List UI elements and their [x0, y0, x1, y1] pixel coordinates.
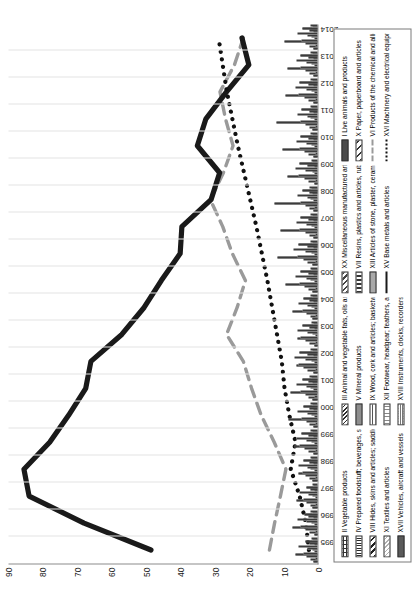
gridline — [8, 508, 317, 509]
legend-item: XVIII Instruments, clocks, recorders and… — [393, 297, 407, 425]
legend-label: XVII Vehicles, aircraft and vessels — [397, 433, 404, 532]
bar — [310, 429, 317, 431]
legend-item: III Animal and vegetable fats, oils and … — [337, 297, 351, 425]
y-axis-tick-label: 40 — [175, 563, 185, 576]
bar — [310, 105, 317, 107]
legend-item: XV Base metals and articles — [379, 165, 393, 293]
bar — [310, 348, 317, 350]
legend-item: XI Textiles and articles — [379, 429, 393, 557]
y-axis-tick-label: 70 — [72, 563, 82, 576]
legend-item: XVII Vehicles, aircraft and vessels — [393, 429, 407, 557]
bar — [312, 483, 318, 485]
legend-swatch-icon — [341, 535, 348, 557]
gridline — [8, 400, 317, 401]
legend-label: XVIII Instruments, clocks, recorders and… — [397, 297, 404, 400]
gridline — [8, 535, 317, 536]
legend-item: XIII Articles of stone, plaster, ceramic… — [365, 165, 379, 293]
bar — [310, 402, 317, 404]
y-axis-tick-label: 60 — [106, 563, 116, 576]
rotated-figure: 9080706050403020100199519961997199819992… — [0, 0, 419, 606]
y-axis-tick-label: 0 — [313, 563, 323, 572]
legend-swatch-icon — [369, 403, 376, 425]
bar — [310, 510, 317, 512]
legend-item: IX Wood, cork and articles; basketware — [365, 297, 379, 425]
bar — [310, 213, 317, 215]
line-series — [218, 37, 308, 549]
legend-label: VII Resins, plastics and articles, rubbe… — [355, 165, 362, 268]
gridline — [8, 454, 317, 455]
bar — [310, 240, 317, 242]
legend-item: XII Footwear, headgear; feathers, artif.… — [379, 297, 393, 425]
legend-line-icon — [369, 139, 376, 161]
legend-spacer — [393, 33, 407, 161]
bar — [310, 294, 317, 296]
y-axis-tick-label: 20 — [244, 563, 254, 576]
gridline — [8, 49, 317, 50]
legend-label: IV Prepared foodstuff; beverages, spirit… — [355, 429, 362, 532]
chart-screenshot: 9080706050403020100199519961997199819992… — [0, 0, 419, 606]
gridline — [8, 292, 317, 293]
legend-swatch-icon — [355, 271, 362, 293]
bar — [310, 51, 317, 53]
legend-label: VI Products of the chemical and allied i… — [369, 33, 376, 136]
legend-label: VIII Hides, skins and articles; saddlery… — [369, 429, 376, 532]
gridline — [8, 130, 317, 131]
legend-swatch-icon — [355, 403, 362, 425]
gridline — [8, 427, 317, 428]
legend-swatch-icon — [397, 535, 404, 557]
legend-swatch-icon — [383, 535, 390, 557]
gridline — [8, 157, 317, 158]
legend-item: XVI Machinery and electrical equipment — [379, 33, 393, 161]
legend-swatch-icon — [369, 535, 376, 557]
gridline — [8, 319, 317, 320]
legend-item: XX Miscellaneous manufactured articles — [337, 165, 351, 293]
legend-swatch-icon — [341, 139, 348, 161]
legend-swatch-icon — [355, 139, 362, 161]
legend-swatch-icon — [355, 535, 362, 557]
line-series — [23, 37, 248, 549]
y-axis-tick-label: 30 — [210, 563, 220, 576]
gridline — [8, 103, 317, 104]
legend-item: VI Products of the chemical and allied i… — [365, 33, 379, 161]
bar — [310, 78, 317, 80]
gridline — [8, 76, 317, 77]
bar — [311, 159, 317, 161]
gridline — [8, 346, 317, 347]
gridline — [8, 184, 317, 185]
legend-label: XV Base metals and articles — [383, 186, 390, 268]
bar — [311, 537, 317, 539]
gridline — [8, 238, 317, 239]
legend-label: III Animal and vegetable fats, oils and … — [341, 297, 348, 400]
bar — [309, 375, 317, 377]
y-axis-tick-label: 80 — [37, 563, 47, 576]
bar — [309, 186, 317, 188]
legend-label: XI Textiles and articles — [383, 467, 390, 532]
plot-area: 9080706050403020100199519961997199819992… — [8, 24, 318, 564]
legend-label: IX Wood, cork and articles; basketware — [369, 297, 376, 400]
bar — [311, 321, 317, 323]
legend-label: X Paper, paperboard and articles — [355, 40, 362, 136]
legend-swatch-icon — [383, 403, 390, 425]
bar — [310, 24, 317, 26]
legend-swatch-icon — [341, 403, 348, 425]
legend-spacer — [393, 165, 407, 293]
gridline — [8, 481, 317, 482]
gridline — [8, 373, 317, 374]
legend-item: II Vegetable products — [337, 429, 351, 557]
legend-swatch-icon — [369, 271, 376, 293]
line-series — [210, 37, 286, 549]
legend-swatch-icon — [341, 271, 348, 293]
legend-label: XVI Machinery and electrical equipment — [383, 33, 390, 136]
bar — [310, 456, 317, 458]
gridline — [8, 265, 317, 266]
legend-item: I Live animals and products — [337, 33, 351, 161]
legend-label: XII Footwear, headgear; feathers, artif.… — [383, 297, 390, 400]
legend-line-icon — [383, 139, 390, 161]
legend-label: XIII Articles of stone, plaster, ceramic… — [369, 165, 376, 268]
y-axis-tick-label: 50 — [141, 563, 151, 576]
legend-item: V Mineral products — [351, 297, 365, 425]
bar — [310, 267, 317, 269]
gridline — [8, 211, 317, 212]
legend-item: IV Prepared foodstuff; beverages, spirit… — [351, 429, 365, 557]
legend-swatch-icon — [397, 403, 404, 425]
